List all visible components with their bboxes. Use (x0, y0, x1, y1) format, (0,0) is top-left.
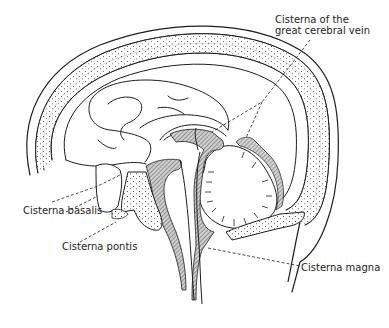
leader-vein-2 (246, 102, 262, 138)
skull-bone-band (36, 34, 330, 225)
label-line: Cisterna pontis (62, 241, 137, 252)
leader-pontis (80, 222, 116, 242)
label-line: great cerebral vein (275, 25, 370, 36)
label-cisterna-pontis: Cisterna pontis (62, 241, 137, 252)
sagittal-head-drawing (0, 0, 389, 328)
label-line: Cisterna basalis (23, 205, 102, 216)
label-line: Cisterna magna (301, 262, 380, 273)
label-cisterna-great-cerebral-vein: Cisterna of the great cerebral vein (275, 14, 370, 36)
brain-cisterns-diagram: Cisterna of the great cerebral vein Cist… (0, 0, 389, 328)
label-line: Cisterna of the (275, 14, 370, 25)
label-cisterna-magna: Cisterna magna (301, 262, 380, 273)
leader-magna (208, 248, 300, 266)
label-cisterna-basalis: Cisterna basalis (23, 205, 102, 216)
